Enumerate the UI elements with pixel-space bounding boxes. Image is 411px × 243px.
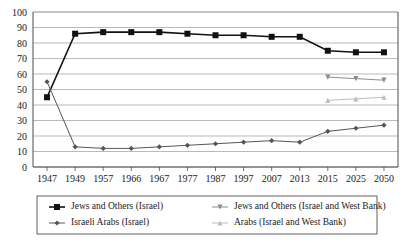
data-series: [325, 95, 386, 103]
data-point-marker: [184, 31, 190, 37]
legend-item-label: Jews and Others (Israel): [71, 201, 163, 212]
data-point-marker: [157, 144, 162, 149]
legend-item: Arabs (Israel and West Bank): [212, 217, 346, 228]
data-point-marker: [44, 79, 49, 84]
line-chart: 0102030405060708090100 19471949195719661…: [0, 0, 411, 243]
data-series: [325, 75, 386, 83]
y-axis-tick-label: 0: [22, 162, 27, 173]
y-axis-tick-label: 40: [17, 100, 27, 111]
y-axis-tick-label: 20: [17, 131, 27, 142]
x-axis-tick-label: 2050: [374, 173, 394, 184]
chart-legend: Jews and Others (Israel)Jews and Others …: [37, 196, 386, 234]
chart-container: 0102030405060708090100 19471949195719661…: [0, 0, 411, 243]
data-point-marker: [269, 138, 274, 143]
y-axis-tick-label: 80: [17, 38, 27, 49]
legend-item-label: Arabs (Israel and West Bank): [234, 217, 346, 228]
legend-item-label: Jews and Others (Israel and West Bank): [234, 201, 386, 212]
legend-item: Israeli Arabs (Israel): [49, 217, 149, 228]
data-point-marker: [72, 31, 78, 37]
x-axis-tick-label: 1967: [149, 173, 169, 184]
data-point-marker: [100, 29, 106, 35]
data-point-marker: [353, 49, 359, 55]
x-axis-tick-label: 1957: [93, 173, 113, 184]
x-axis-tick-label: 1977: [177, 173, 197, 184]
data-point-marker: [54, 220, 59, 225]
x-axis-tick-label: 1947: [37, 173, 57, 184]
data-point-marker: [325, 48, 331, 54]
y-axis-tick-label: 100: [12, 7, 27, 18]
data-point-marker: [213, 141, 218, 146]
data-series-group: [44, 29, 387, 151]
x-axis-tick-label: 1949: [65, 173, 85, 184]
x-axis-tick-labels: 1947194919571966196719771987199720072013…: [37, 173, 394, 184]
data-point-marker: [73, 144, 78, 149]
data-point-marker: [129, 146, 134, 151]
data-point-marker: [297, 140, 302, 145]
x-axis-tick-label: 2025: [346, 173, 366, 184]
x-axis-tickmarks: [47, 167, 384, 171]
data-point-marker: [353, 126, 358, 131]
data-point-marker: [101, 146, 106, 151]
y-axis-tick-label: 90: [17, 22, 27, 33]
data-point-marker: [297, 34, 303, 40]
y-axis-tick-label: 30: [17, 115, 27, 126]
x-axis-tick-label: 1966: [121, 173, 141, 184]
data-point-marker: [381, 49, 387, 55]
series-line: [47, 32, 384, 97]
y-axis-tick-label: 70: [17, 53, 27, 64]
data-point-marker: [54, 204, 60, 210]
data-point-marker: [185, 143, 190, 148]
data-point-marker: [269, 34, 275, 40]
x-axis-tick-label: 2015: [318, 173, 338, 184]
series-line: [47, 82, 384, 149]
data-point-marker: [156, 29, 162, 35]
y-axis-tick-label: 50: [17, 84, 27, 95]
data-series: [44, 79, 386, 151]
x-axis-tick-label: 1987: [206, 173, 226, 184]
x-axis-tick-label: 2007: [262, 173, 282, 184]
data-point-marker: [241, 32, 247, 38]
x-axis-tick-label: 1997: [234, 173, 254, 184]
legend-item: Jews and Others (Israel): [49, 201, 163, 212]
data-point-marker: [241, 140, 246, 145]
y-axis-tick-label: 10: [17, 146, 27, 157]
data-point-marker: [381, 123, 386, 128]
legend-item: Jews and Others (Israel and West Bank): [212, 201, 386, 212]
data-point-marker: [128, 29, 134, 35]
data-point-marker: [213, 32, 219, 38]
x-axis-tick-label: 2013: [290, 173, 310, 184]
legend-item-label: Israeli Arabs (Israel): [71, 217, 149, 228]
y-axis-tick-labels: 0102030405060708090100: [12, 7, 27, 173]
data-point-marker: [44, 94, 50, 100]
data-point-marker: [325, 129, 330, 134]
y-axis-tick-label: 60: [17, 69, 27, 80]
